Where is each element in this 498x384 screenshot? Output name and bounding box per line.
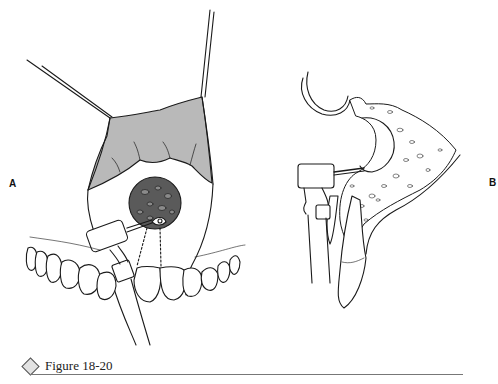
retracted-flap <box>88 97 212 190</box>
panel-label-b: B <box>489 177 496 188</box>
caption-divider <box>30 374 463 375</box>
handpiece-head-b <box>298 164 334 188</box>
panel-label-a: A <box>9 178 16 189</box>
caption-text: Figure 18-20 <box>45 358 113 374</box>
panel-a-drawing <box>26 10 245 345</box>
figure-caption: Figure 18-20 <box>20 356 113 376</box>
panel-b-drawing <box>298 72 460 308</box>
diamond-icon <box>21 357 39 375</box>
figure-illustration <box>0 0 498 384</box>
